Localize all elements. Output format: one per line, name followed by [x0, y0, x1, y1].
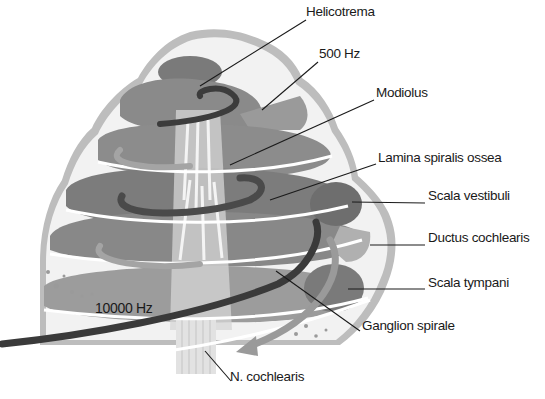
label-ductus-cochlearis: Ductus cochlearis [428, 231, 529, 245]
label-helicotrema: Helicotrema [306, 5, 375, 19]
label-ganglion-spirale: Ganglion spirale [362, 319, 455, 333]
label-scala-tympani: Scala tympani [428, 276, 509, 290]
label-10000hz: 10000 Hz [95, 301, 153, 315]
cochlea-diagram: 10000 Hz Helicotrema 500 Hz Modiolus Lam… [0, 0, 545, 399]
label-n-cochlearis: N. cochlearis [230, 370, 304, 384]
label-500hz: 500 Hz [319, 47, 360, 61]
label-scala-vestibuli: Scala vestibuli [428, 189, 510, 203]
label-lamina-spiralis-ossea: Lamina spiralis ossea [378, 151, 502, 165]
label-modiolus: Modiolus [376, 86, 428, 100]
